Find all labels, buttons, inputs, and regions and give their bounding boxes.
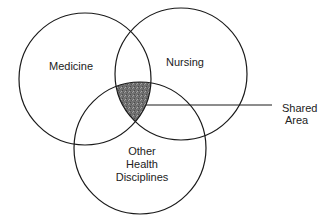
shared-label-line1: Shared	[282, 102, 317, 114]
nursing-label: Nursing	[166, 56, 204, 68]
medicine-circle	[19, 13, 151, 145]
other-label-line3: Disciplines	[116, 171, 169, 183]
shared-label-line2: Area	[285, 114, 309, 126]
other-label-line1: Other	[128, 145, 156, 157]
other-label-line2: Health	[126, 158, 158, 170]
medicine-label: Medicine	[49, 60, 93, 72]
venn-diagram: Medicine Nursing Other Health Discipline…	[0, 0, 330, 223]
